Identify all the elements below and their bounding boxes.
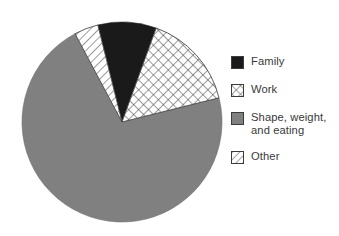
legend-item-shape-weight-and-eating: Shape, weight, and eating — [231, 111, 339, 136]
pie-slices — [22, 22, 222, 222]
solid-black-swatch — [231, 56, 244, 69]
legend-item-family: Family — [231, 55, 339, 69]
crosshatch-swatch — [231, 84, 244, 97]
chart-legend: Family Work Shape, weight, and eating Ot… — [231, 55, 339, 164]
legend-item-work: Work — [231, 83, 339, 97]
pie-chart-figure: Family Work Shape, weight, and eating Ot… — [0, 0, 339, 236]
legend-item-other: Other — [231, 150, 339, 164]
diagonal-hatch-swatch — [231, 151, 244, 164]
legend-item-label: Work — [251, 83, 277, 96]
solid-gray-swatch — [231, 112, 244, 125]
legend-item-label: Shape, weight, and eating — [251, 111, 326, 136]
legend-item-label: Family — [251, 55, 285, 68]
legend-item-label: Other — [251, 150, 279, 163]
